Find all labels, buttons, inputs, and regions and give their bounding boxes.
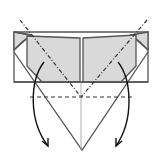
left-flap [27, 36, 80, 82]
origami-diagram [0, 0, 158, 160]
